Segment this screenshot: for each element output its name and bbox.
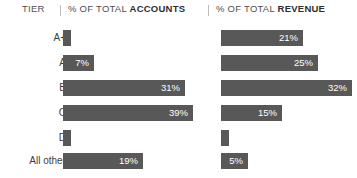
revenue-bar: 15% xyxy=(221,105,282,121)
table-row: B31%32% xyxy=(0,80,357,96)
revenue-bar: 25% xyxy=(221,55,318,71)
revenue-bar xyxy=(221,130,229,146)
revenue-bar: 21% xyxy=(221,30,303,46)
table-row: A+21% xyxy=(0,30,357,46)
accounts-bar xyxy=(63,130,71,146)
revenue-bar: 32% xyxy=(221,80,352,96)
table-row: All other19%5% xyxy=(0,153,357,169)
tier-comparison-chart: TIER % OF TOTAL ACCOUNTS % OF TOTAL REVE… xyxy=(0,0,357,178)
accounts-bar-value: 19% xyxy=(119,153,138,169)
tier-label: All other xyxy=(29,153,66,169)
header-divider-two xyxy=(208,5,209,16)
header-revenue-prefix: % OF TOTAL xyxy=(216,3,278,14)
header-revenue-label: % OF TOTAL REVENUE xyxy=(216,3,325,14)
header-divider-one xyxy=(60,5,61,16)
revenue-bar-value: 32% xyxy=(328,80,347,96)
revenue-bar-value: 15% xyxy=(258,105,277,121)
revenue-bar-value: 5% xyxy=(229,153,243,169)
header-revenue-strong: REVENUE xyxy=(278,3,326,14)
accounts-bar-value: 31% xyxy=(161,80,180,96)
header-accounts-label: % OF TOTAL ACCOUNTS xyxy=(68,3,185,14)
accounts-bar xyxy=(63,30,71,46)
table-row: A7%25% xyxy=(0,55,357,71)
header-accounts-strong: ACCOUNTS xyxy=(130,3,186,14)
accounts-bar: 31% xyxy=(63,80,185,96)
revenue-bar-value: 25% xyxy=(294,55,313,71)
revenue-bar: 5% xyxy=(221,153,248,169)
table-row: D xyxy=(0,130,357,146)
accounts-bar: 7% xyxy=(63,55,94,71)
chart-header: TIER % OF TOTAL ACCOUNTS % OF TOTAL REVE… xyxy=(0,3,357,17)
header-tier-label: TIER xyxy=(22,3,45,14)
header-accounts-prefix: % OF TOTAL xyxy=(68,3,130,14)
accounts-bar: 39% xyxy=(63,105,193,121)
accounts-bar-value: 39% xyxy=(169,105,188,121)
revenue-bar-value: 21% xyxy=(279,30,298,46)
table-row: C39%15% xyxy=(0,105,357,121)
accounts-bar: 19% xyxy=(63,153,143,169)
accounts-bar-value: 7% xyxy=(75,55,89,71)
